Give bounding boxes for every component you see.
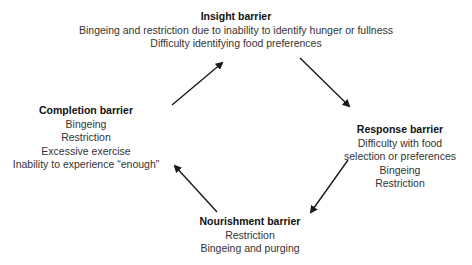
- node-line: selection or preferences: [325, 150, 472, 164]
- node-line: Inability to experience “enough”: [0, 158, 172, 172]
- node-title: Completion barrier: [0, 104, 172, 118]
- node-line: Restriction: [0, 131, 172, 145]
- insight-barrier-node: Insight barrier Bingeing and restriction…: [0, 10, 472, 51]
- node-line: Restriction: [325, 177, 472, 191]
- node-line: Restriction: [170, 229, 330, 243]
- node-title: Response barrier: [325, 123, 472, 137]
- node-line: Excessive exercise: [0, 145, 172, 159]
- node-line: Bingeing: [0, 118, 172, 132]
- node-line: Bingeing and purging: [170, 242, 330, 256]
- node-line: Bingeing and restriction due to inabilit…: [0, 24, 472, 38]
- node-line: Bingeing: [325, 164, 472, 178]
- arrow-insight-to-response: [300, 58, 349, 106]
- node-title: Insight barrier: [0, 10, 472, 24]
- arrow-nourishment-to-completion: [175, 166, 217, 212]
- arrow-completion-to-insight: [172, 63, 222, 105]
- completion-barrier-node: Completion barrier Bingeing Restriction …: [0, 104, 172, 172]
- node-title: Nourishment barrier: [170, 215, 330, 229]
- nourishment-barrier-node: Nourishment barrier Restriction Bingeing…: [170, 215, 330, 256]
- node-line: Difficulty identifying food preferences: [0, 37, 472, 51]
- response-barrier-node: Response barrier Difficulty with food se…: [325, 123, 472, 191]
- node-line: Difficulty with food: [325, 137, 472, 151]
